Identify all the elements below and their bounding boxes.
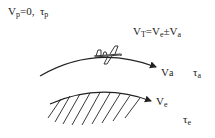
ve-symbol: V bbox=[156, 95, 164, 107]
earth-surface-curve bbox=[50, 92, 151, 104]
vp-value: =0, bbox=[20, 5, 34, 17]
tau-p-subscript: p bbox=[44, 10, 48, 19]
initial-velocity-label: Vp=0, τp bbox=[8, 6, 48, 17]
vt-symbol: V bbox=[133, 25, 141, 37]
ground-hatching bbox=[48, 93, 140, 126]
ve-label-subscript: e bbox=[164, 100, 168, 109]
diagram-canvas: Vp=0, τp VT=Ve±Va Va τa Ve τe bbox=[0, 0, 215, 138]
velocity-formula: VT=Ve±Va bbox=[133, 26, 181, 37]
earth-velocity-label: Ve bbox=[156, 96, 168, 107]
plus-minus-va: ±V bbox=[164, 25, 178, 37]
va-subscript: a bbox=[178, 30, 182, 39]
tau-a-subscript: a bbox=[197, 71, 201, 80]
tau-e-subscript: e bbox=[187, 118, 191, 127]
vp-symbol: V bbox=[8, 5, 16, 17]
aircraft-trajectory-curve bbox=[40, 57, 156, 76]
va-symbol: V bbox=[161, 66, 169, 78]
airplane-icon bbox=[94, 46, 122, 64]
va-subscript: a bbox=[169, 67, 173, 78]
earth-time-label: τe bbox=[183, 114, 191, 125]
aircraft-time-label: τa bbox=[193, 67, 201, 78]
equals-ve: =V bbox=[146, 25, 160, 37]
aircraft-velocity-label: Va bbox=[161, 67, 173, 78]
